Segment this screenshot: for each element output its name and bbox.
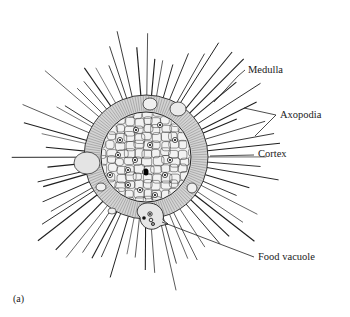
organism-illustration (0, 0, 350, 317)
panel-label: (a) (13, 294, 24, 304)
label-axopodia: Axopodia (280, 110, 321, 121)
label-food-vacuole: Food vacuole (258, 252, 315, 263)
label-cortex: Cortex (258, 149, 287, 160)
label-medulla: Medulla (248, 65, 283, 76)
heliozoan-diagram: Medulla Axopodia Cortex Food vacuole (a) (0, 0, 350, 317)
